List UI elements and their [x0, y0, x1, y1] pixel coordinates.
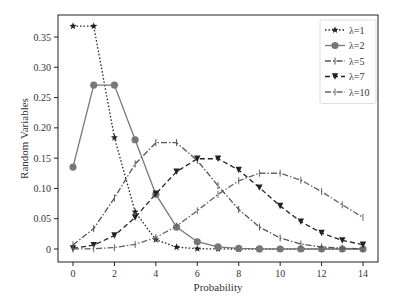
marker-circle-icon — [111, 81, 118, 88]
y-axis-ticks: 00.050.100.150.200.250.300.35 — [34, 32, 59, 255]
y-tick-label: 0.15 — [34, 153, 52, 164]
chart-canvas: 02468101214 00.050.100.150.200.250.300.3… — [0, 0, 398, 307]
marker-circle-icon — [331, 42, 338, 49]
marker-circle-icon — [277, 245, 284, 252]
series-line — [73, 159, 363, 249]
legend-label: λ=10 — [349, 87, 370, 98]
marker-circle-icon — [69, 163, 76, 170]
y-tick-label: 0.30 — [34, 62, 52, 73]
y-tick-label: 0.10 — [34, 183, 52, 194]
y-tick-label: 0.25 — [34, 92, 52, 103]
poisson-line-chart: 02468101214 00.050.100.150.200.250.300.3… — [0, 0, 398, 307]
legend-label: λ=5 — [349, 56, 365, 67]
x-tick-label: 8 — [236, 268, 241, 279]
marker-star-icon — [194, 245, 201, 252]
series-1 — [69, 81, 366, 252]
marker-circle-icon — [132, 136, 139, 143]
legend: λ=1λ=2λ=5λ=7λ=10 — [320, 20, 376, 104]
marker-star-icon — [69, 22, 76, 29]
marker-triangle-down-icon — [318, 230, 324, 236]
x-tick-label: 4 — [153, 268, 158, 279]
x-axis-ticks: 02468101214 — [71, 262, 369, 279]
y-tick-label: 0.05 — [34, 213, 52, 224]
marker-star-icon — [173, 243, 180, 250]
x-tick-label: 0 — [71, 268, 76, 279]
series-4 — [73, 170, 363, 253]
marker-star-icon — [111, 134, 118, 141]
marker-circle-icon — [194, 238, 201, 245]
marker-triangle-down-icon — [298, 218, 304, 224]
x-tick-label: 6 — [195, 268, 200, 279]
y-tick-label: 0.20 — [34, 122, 52, 133]
series-3 — [70, 156, 366, 252]
marker-circle-icon — [256, 245, 263, 252]
y-tick-label: 0 — [46, 244, 51, 255]
marker-circle-icon — [235, 245, 242, 252]
series-line — [73, 85, 363, 249]
x-tick-label: 12 — [317, 268, 327, 279]
y-axis-label: Random Variables — [18, 98, 30, 179]
x-tick-label: 10 — [275, 268, 285, 279]
x-tick-label: 14 — [358, 268, 368, 279]
marker-triangle-down-icon — [111, 232, 117, 238]
marker-circle-icon — [214, 243, 221, 250]
marker-circle-icon — [90, 81, 97, 88]
legend-label: λ=7 — [349, 71, 365, 82]
marker-star-icon — [90, 22, 97, 29]
x-tick-label: 2 — [112, 268, 117, 279]
legend-label: λ=2 — [349, 40, 365, 51]
x-axis-label: Probability — [194, 281, 243, 293]
legend-label: λ=1 — [349, 25, 365, 36]
marker-triangle-down-icon — [215, 156, 221, 162]
y-tick-label: 0.35 — [34, 32, 52, 43]
